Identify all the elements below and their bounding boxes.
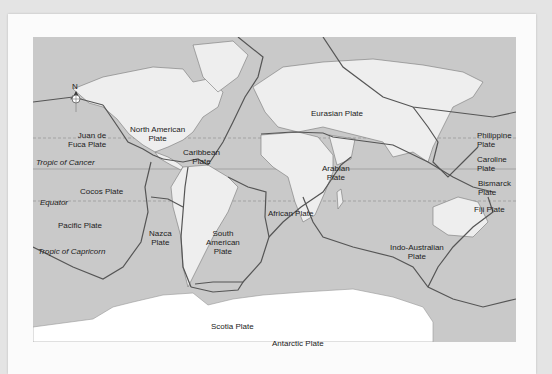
label-philippine-plate: PhilippinePlate bbox=[477, 131, 512, 149]
label-bismarck-plate: BismarckPlate bbox=[478, 179, 511, 197]
madagascar-landmass bbox=[337, 189, 343, 209]
label-antarctic-plate: Antarctic Plate bbox=[272, 339, 324, 348]
compass-rose: N bbox=[69, 82, 83, 112]
label-juan-de-fuca-plate: Juan deFuca Plate bbox=[68, 131, 106, 149]
label-caroline-plate: CarolinePlate bbox=[477, 155, 507, 173]
label-nazca-plate: NazcaPlate bbox=[149, 229, 172, 247]
label-eurasian-plate: Eurasian Plate bbox=[311, 109, 363, 118]
compass-icon bbox=[69, 82, 83, 112]
australia-landmass bbox=[433, 197, 488, 237]
label-cocos-plate: Cocos Plate bbox=[80, 187, 123, 196]
antarctica-landmass bbox=[33, 289, 433, 342]
label-arabian-plate: ArabianPlate bbox=[322, 164, 350, 182]
label-tropic-of-capricorn: Tropic of Capricorn bbox=[38, 247, 105, 256]
label-south-american-plate: SouthAmericanPlate bbox=[206, 229, 240, 256]
label-fiji-plate: Fiji Plate bbox=[474, 205, 505, 214]
label-pacific-plate: Pacific Plate bbox=[58, 221, 102, 230]
label-scotia-plate: Scotia Plate bbox=[211, 322, 254, 331]
label-tropic-of-cancer: Tropic of Cancer bbox=[36, 158, 95, 167]
label-equator: Equator bbox=[40, 198, 68, 207]
label-north-american-plate: North AmericanPlate bbox=[130, 125, 185, 143]
label-indo-australian-plate: Indo-AustralianPlate bbox=[390, 243, 444, 261]
south-america-landmass bbox=[171, 165, 238, 287]
label-caribbean-plate: CaribbeanPlate bbox=[183, 148, 220, 166]
label-african-plate: African Plate bbox=[268, 209, 313, 218]
